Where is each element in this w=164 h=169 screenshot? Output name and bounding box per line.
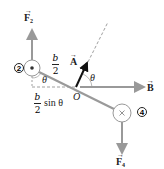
moment-arm-fraction: b 2 xyxy=(34,92,41,115)
angle-theta-right-label: θ xyxy=(90,73,95,83)
wire-4-id-badge: 4 xyxy=(137,107,147,117)
force-f4-label: → F4 xyxy=(116,157,125,168)
angle-theta-left-label: θ xyxy=(42,75,47,85)
b-field-label: → B xyxy=(147,83,154,93)
wire-2-id-badge: 2 xyxy=(14,63,24,73)
half-length-label: b 2 xyxy=(52,53,59,76)
pivot-o-label: O xyxy=(73,92,80,102)
area-vector-label: → A xyxy=(70,57,77,67)
current-out-dot-icon xyxy=(30,66,34,70)
force-f2-label: → F2 xyxy=(24,13,33,24)
moment-arm-sin-label: sin θ xyxy=(44,98,63,108)
normal-dashed-line xyxy=(88,22,108,62)
diagram-canvas xyxy=(0,0,164,169)
